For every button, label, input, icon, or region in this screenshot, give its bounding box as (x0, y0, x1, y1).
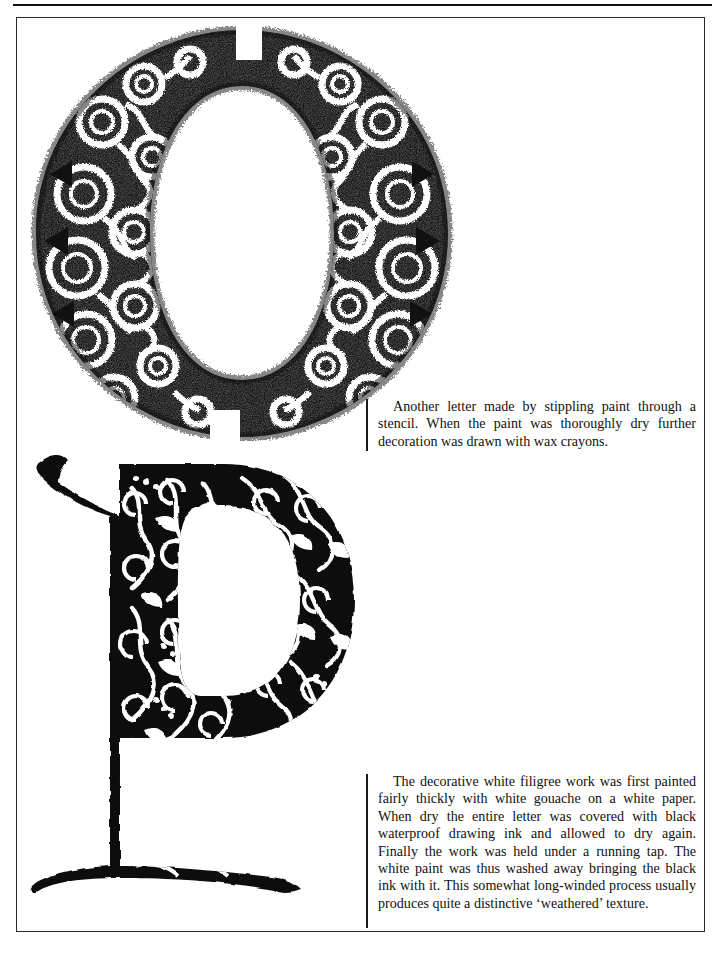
book-page: Another letter made by stippling paint t… (0, 0, 727, 953)
letter-o-artwork (22, 26, 462, 441)
top-hairline-rule (13, 4, 712, 6)
caption-letter-p-text: The decorative white filigree work was f… (378, 773, 696, 912)
caption-rule-letter-o (366, 399, 368, 451)
letter-p-artwork (28, 448, 428, 910)
caption-letter-o: Another letter made by stippling paint t… (378, 398, 696, 450)
caption-letter-p: The decorative white filigree work was f… (378, 773, 696, 912)
letter-p-glyph (28, 448, 428, 910)
caption-rule-letter-p (366, 774, 368, 928)
caption-letter-o-text: Another letter made by stippling paint t… (378, 398, 696, 450)
